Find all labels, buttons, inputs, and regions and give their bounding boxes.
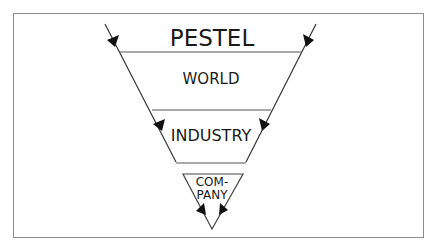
arrow-company-left-icon <box>196 203 206 215</box>
arrow-left-top-icon <box>107 35 119 47</box>
pestel-title: PESTEL <box>160 25 264 51</box>
world-level-label: WORLD <box>170 70 252 88</box>
industry-level-label: INDUSTRY <box>160 126 262 145</box>
arrow-company-right-icon <box>219 203 228 215</box>
company-level-label: COM- PANY <box>190 176 234 202</box>
company-label-line2: PANY <box>190 189 234 202</box>
